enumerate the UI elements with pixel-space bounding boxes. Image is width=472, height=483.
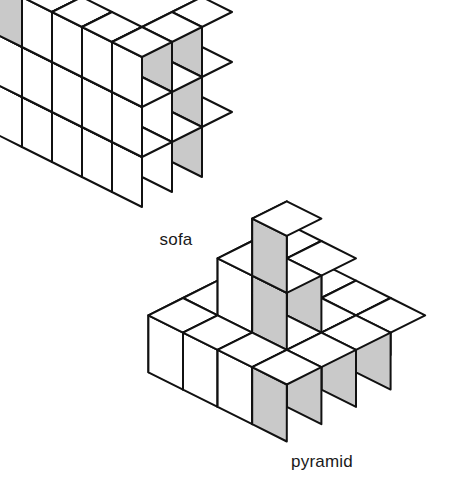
- figure-label-sofa: sofa: [160, 230, 193, 250]
- figure-canvas: sofa pyramid: [0, 0, 472, 483]
- cube-structures-svg: [0, 0, 472, 483]
- figure-label-pyramid: pyramid: [291, 452, 353, 472]
- figure-sofa: [0, 0, 232, 207]
